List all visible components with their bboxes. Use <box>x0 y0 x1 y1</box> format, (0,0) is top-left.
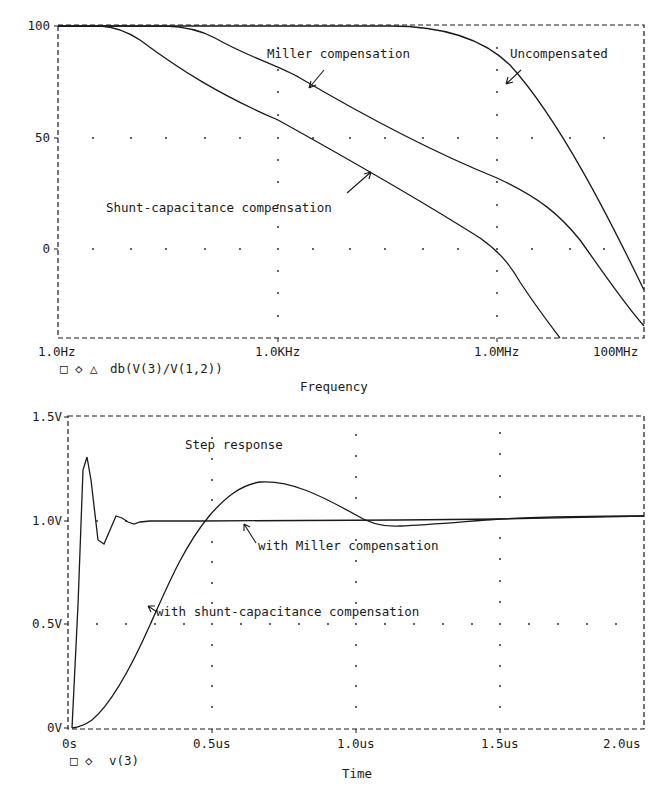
plot-frame <box>58 25 644 338</box>
label-miller-compensation: Miller compensation <box>267 46 410 61</box>
arrow-shunt <box>347 172 371 193</box>
x-tick-100mhz: 100MHz <box>593 344 638 359</box>
frequency-response-chart: 100 50 0 1.0Hz 1.0KHz 1.0MHz 100MHz □ ◇ … <box>27 18 644 394</box>
x-tick-1.0us: 1.0us <box>337 736 375 751</box>
x-tick-1.5us: 1.5us <box>481 736 519 751</box>
x-tick-1hz: 1.0Hz <box>38 344 76 359</box>
curve-miller-step <box>72 457 644 728</box>
title-step-response: Step response <box>185 437 283 452</box>
curve-shunt <box>58 26 560 338</box>
figure: 100 50 0 1.0Hz 1.0KHz 1.0MHz 100MHz □ ◇ … <box>0 0 665 800</box>
x-tick-1khz: 1.0KHz <box>255 344 300 359</box>
axis-ticks-bottom <box>64 417 500 733</box>
step-response-chart: 1.5V 1.0V 0.5V 0V 0s 0.5us 1.0us 1.5us 2… <box>32 409 644 781</box>
legend-expression-bottom: v(3) <box>109 753 139 768</box>
legend-markers-bottom: □ ◇ <box>70 753 93 768</box>
y-tick-100: 100 <box>27 18 50 33</box>
y-tick-0v: 0V <box>47 720 63 735</box>
label-shunt-capacitance: Shunt-capacitance compensation <box>106 200 332 215</box>
label-uncompensated: Uncompensated <box>510 46 608 61</box>
x-tick-1mhz: 1.0MHz <box>474 344 519 359</box>
arrow-uncompensated <box>506 70 521 84</box>
x-axis-label: Frequency <box>300 379 368 394</box>
x-tick-2.0us: 2.0us <box>603 736 641 751</box>
label-with-miller: with Miller compensation <box>258 538 439 553</box>
plot-frame-bottom <box>68 416 644 729</box>
arrow-miller <box>309 70 324 88</box>
arrow-with-miller <box>244 524 256 543</box>
y-tick-0: 0 <box>42 241 50 256</box>
legend-expression: db(V(3)/V(1,2)) <box>110 361 223 376</box>
label-with-shunt: with shunt-capacitance compensation <box>156 604 419 619</box>
y-tick-1.5v: 1.5V <box>32 409 63 424</box>
axis-ticks <box>54 26 497 342</box>
x-axis-label-bottom: Time <box>342 766 372 781</box>
curve-uncompensated <box>58 26 644 290</box>
x-tick-0s: 0s <box>62 736 77 751</box>
legend-markers: □ ◇ △ <box>60 361 98 376</box>
x-tick-0.5us: 0.5us <box>193 736 231 751</box>
curve-miller <box>58 26 644 326</box>
y-tick-1.0v: 1.0V <box>32 513 63 528</box>
y-tick-50: 50 <box>35 130 50 145</box>
grid-dots-bottom <box>96 432 617 708</box>
y-tick-0.5v: 0.5V <box>32 616 63 631</box>
